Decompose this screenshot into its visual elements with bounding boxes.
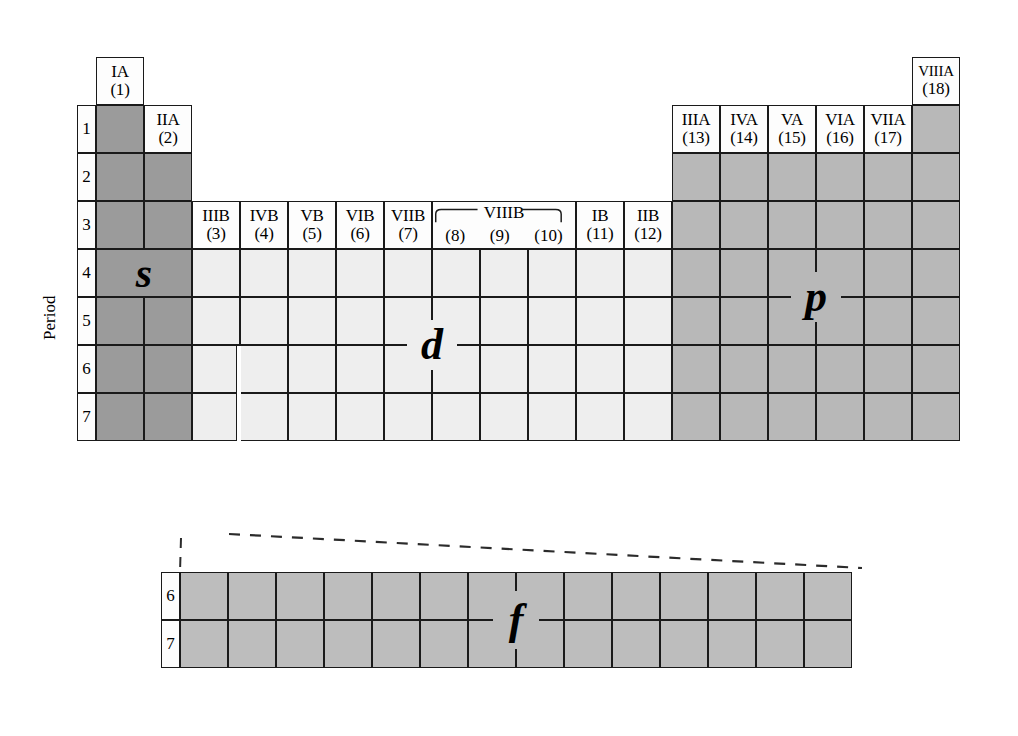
cell-d-block [480, 393, 528, 441]
cell-d-block [432, 249, 480, 297]
cell-p-block [816, 201, 864, 249]
period-label-7: 7 [77, 393, 96, 441]
f-block-period-label-6: 6 [161, 572, 180, 620]
cell-d-block [240, 249, 288, 297]
group-header-roman: VIA [825, 111, 855, 129]
cell-p-block [912, 345, 960, 393]
cell-f-block [420, 620, 468, 668]
cell-s-block [96, 105, 144, 153]
cell-d-block [240, 393, 288, 441]
period-label-2: 2 [77, 153, 96, 201]
group-header-number: (9) [490, 226, 510, 246]
period-label-5: 5 [77, 297, 96, 345]
cell-p-block [912, 201, 960, 249]
group-header-number: (4) [254, 225, 273, 243]
group-header-number: (12) [634, 225, 662, 243]
cell-d-block [576, 297, 624, 345]
cell-f-block [228, 572, 276, 620]
period-label-3: 3 [77, 201, 96, 249]
group-header-roman: IA [111, 63, 129, 81]
group-header-ivb: IVB(4) [240, 201, 288, 249]
cell-p-block [672, 297, 720, 345]
cell-f-block [564, 572, 612, 620]
cell-d-block [288, 393, 336, 441]
group-header-roman: VIIIA [918, 64, 954, 80]
cell-d-block [336, 345, 384, 393]
group-header-ia: IA(1) [96, 57, 144, 105]
f-block-insertion-notch [237, 346, 241, 441]
cell-d-block [336, 249, 384, 297]
cell-p-block [720, 153, 768, 201]
group-header-roman: IVB [250, 207, 279, 225]
cell-f-block [756, 620, 804, 668]
cell-p-block [912, 393, 960, 441]
cell-p-block [768, 393, 816, 441]
cell-s-block [144, 393, 192, 441]
block-letter-f: f [493, 591, 539, 649]
group-header-roman: IB [592, 207, 609, 225]
cell-d-block [192, 393, 240, 441]
group-header-roman: VIIA [870, 111, 905, 129]
cell-f-block [276, 572, 324, 620]
cell-p-block [912, 249, 960, 297]
group-header-vib: VIB(6) [336, 201, 384, 249]
cell-p-block [816, 393, 864, 441]
group-header-number: (14) [730, 129, 758, 147]
cell-p-block [672, 345, 720, 393]
cell-p-block [864, 201, 912, 249]
cell-s-block [96, 153, 144, 201]
cell-d-block [192, 249, 240, 297]
cell-d-block [432, 393, 480, 441]
cell-d-block [288, 345, 336, 393]
cell-f-block [612, 620, 660, 668]
period-axis-label: Period [40, 296, 60, 340]
cell-s-block [144, 345, 192, 393]
group-header-number: (2) [158, 129, 177, 147]
cell-d-block [576, 345, 624, 393]
cell-d-block [192, 345, 240, 393]
cell-f-block [180, 620, 228, 668]
period-label-1: 1 [77, 105, 96, 153]
block-letter-p: p [791, 272, 841, 322]
cell-f-block [708, 572, 756, 620]
cell-d-block [528, 297, 576, 345]
group-header-roman: IIA [157, 111, 180, 129]
cell-f-block [324, 572, 372, 620]
cell-d-block [192, 297, 240, 345]
group-header-number: (1) [110, 81, 129, 99]
cell-f-block [324, 620, 372, 668]
cell-s-block [96, 297, 144, 345]
group-header-roman: IIIA [682, 111, 710, 129]
period-label-4: 4 [77, 249, 96, 297]
group-header-number: (7) [398, 225, 417, 243]
group-header-viiia: VIIIA(18) [912, 57, 960, 105]
cell-s-block [96, 201, 144, 249]
group-header-iib: IIB(12) [624, 201, 672, 249]
group-header-number: (18) [922, 80, 950, 98]
cell-p-block [864, 249, 912, 297]
group-header-roman: VIB [346, 207, 375, 225]
cell-f-block [804, 572, 852, 620]
group-header-vb: VB(5) [288, 201, 336, 249]
cell-f-block [180, 572, 228, 620]
cell-f-block [660, 620, 708, 668]
cell-p-block [672, 153, 720, 201]
group-header-number: (13) [682, 129, 710, 147]
cell-f-block [228, 620, 276, 668]
cell-p-block [720, 249, 768, 297]
group-header-number: (16) [826, 129, 854, 147]
cell-f-block [564, 620, 612, 668]
group-header-roman: IVA [730, 111, 757, 129]
cell-f-block [804, 620, 852, 668]
cell-d-block [624, 297, 672, 345]
group-header-viib: VIIB(7) [384, 201, 432, 249]
cell-s-block [144, 153, 192, 201]
periodic-table-block-diagram: Period 1234567 IA(1)IIA(2)IIIB(3)IVB(4)V… [0, 0, 1018, 736]
group-header-va: VA(15) [768, 105, 816, 153]
cell-f-block [420, 572, 468, 620]
group-header-number: (8) [445, 226, 465, 246]
cell-s-block [96, 345, 144, 393]
cell-d-block [336, 393, 384, 441]
group-header-roman: VA [781, 111, 803, 129]
group-header-number: (15) [778, 129, 806, 147]
